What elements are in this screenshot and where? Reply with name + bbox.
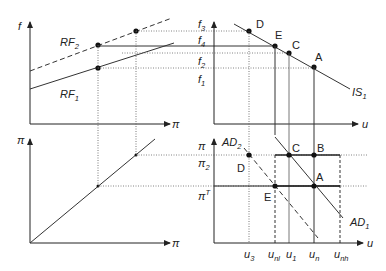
pi-label-vertical: π: [17, 134, 25, 146]
panel-top-left: f π RF2 RF1: [18, 18, 180, 130]
un-label: un: [309, 248, 319, 263]
pi2-label: π2: [198, 157, 210, 172]
f-axis-label: f: [18, 20, 22, 32]
u-axis-label-bottom: u: [367, 237, 373, 249]
f2-label: f2: [198, 55, 206, 70]
panel-top-right: u f3 f4 f2 f1 IS1 D E C A: [198, 18, 368, 130]
right-verticals: [249, 31, 340, 243]
u1-label: u1: [286, 248, 296, 263]
unl-label: unl: [268, 248, 280, 263]
pi-label-horizontal: π: [172, 237, 180, 249]
point-c-bottom: [286, 152, 291, 157]
bottom-connectors: [98, 155, 367, 186]
ad1-label: AD1: [349, 216, 369, 231]
u3-label: u3: [244, 248, 255, 263]
piT-label: πT: [198, 188, 211, 202]
u-axis-label-top: u: [362, 118, 368, 130]
label-c-top: C: [292, 39, 300, 51]
label-a-top: A: [315, 51, 323, 63]
point-b-bottom: [311, 152, 316, 157]
is1-label: IS1: [352, 86, 367, 101]
label-e-top: E: [275, 29, 282, 41]
ad1-curve: [275, 137, 343, 218]
label-c-bottom: C: [292, 142, 300, 154]
rf2-curve: [30, 18, 172, 71]
label-d-top: D: [256, 18, 264, 30]
label-d-bottom: D: [237, 162, 245, 174]
point-d-bottom: [246, 152, 251, 157]
rf1-label: RF1: [60, 88, 79, 103]
ad2-curve: [244, 148, 318, 238]
label-a-bottom: A: [316, 171, 324, 183]
pi-axis-label: π: [172, 118, 180, 130]
pi-tick-label: π: [198, 140, 206, 152]
diagram-canvas: f π RF2 RF1 u f3 f4 f2 f1 IS1 D E: [0, 0, 386, 271]
rf2-label: RF2: [60, 36, 80, 51]
panel-bottom-left: π π: [17, 134, 180, 249]
f1-label: f1: [198, 73, 205, 88]
point-a-bottom: [311, 183, 316, 188]
point-e-bottom: [272, 183, 277, 188]
label-e-bottom: E: [264, 191, 271, 203]
unh-label: unh: [334, 248, 348, 263]
rf1-curve: [30, 43, 174, 89]
label-b-bottom: B: [317, 142, 324, 154]
is1-curve: [234, 24, 350, 89]
f4-label: f4: [198, 34, 205, 49]
ad2-label: AD2: [221, 136, 242, 151]
